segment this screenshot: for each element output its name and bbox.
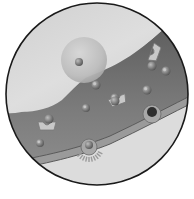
cell-signaling-illustration — [0, 0, 194, 199]
molecule — [82, 104, 90, 112]
channel-core — [85, 141, 93, 149]
molecule-highlight — [83, 105, 86, 108]
vesicle-cargo — [75, 58, 83, 66]
bound-ligand — [111, 97, 120, 106]
molecule — [36, 139, 44, 147]
illustration-canvas — [0, 0, 194, 199]
channel-core — [147, 107, 157, 117]
molecule-highlight — [37, 140, 40, 143]
molecule — [92, 81, 101, 90]
molecule-highlight — [93, 82, 96, 85]
vesicle — [61, 37, 107, 83]
molecule — [143, 86, 152, 95]
bound-ligand — [148, 62, 157, 71]
circle-content — [0, 0, 194, 199]
molecule-highlight — [144, 87, 147, 90]
bound-ligand — [45, 115, 54, 124]
molecule-highlight — [163, 68, 166, 71]
molecule — [162, 67, 171, 76]
